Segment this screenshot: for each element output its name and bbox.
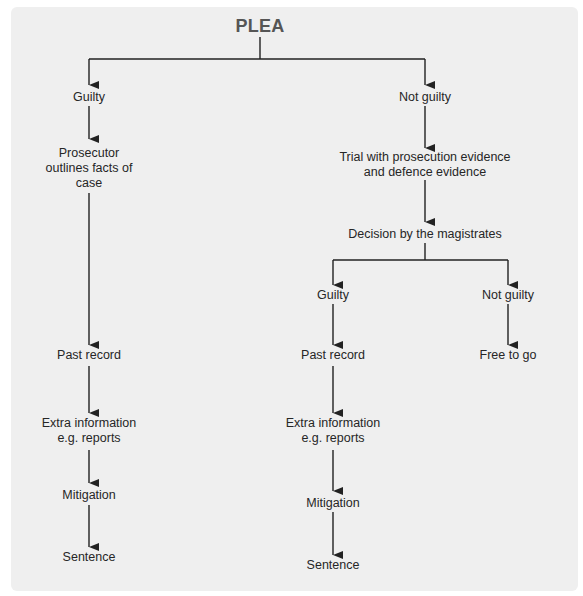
step-sentence-left: Sentence [63, 550, 116, 565]
step-extra-info-left-line2: e.g. reports [57, 431, 120, 446]
outcome-not-guilty-label: Not guilty [482, 288, 534, 303]
not-guilty-plea-label: Not guilty [399, 90, 451, 105]
step-mitigation-left: Mitigation [62, 488, 116, 503]
step-sentence-right: Sentence [307, 558, 360, 573]
guilty-plea-label: Guilty [73, 90, 105, 105]
plea-title: PLEA [235, 16, 284, 37]
step-extra-info-right-line1: Extra information [286, 416, 380, 431]
trial-line2: and defence evidence [364, 165, 486, 180]
step-prosecutor-line1: Prosecutor [59, 146, 119, 161]
step-prosecutor-line3: case [76, 176, 102, 191]
step-extra-info-right-line2: e.g. reports [301, 431, 364, 446]
step-prosecutor-line2: outlines facts of [46, 161, 133, 176]
step-mitigation-right: Mitigation [306, 496, 360, 511]
step-extra-info-left-line1: Extra information [42, 416, 136, 431]
decision-label: Decision by the magistrates [348, 227, 502, 242]
step-free-to-go: Free to go [480, 348, 537, 363]
trial-line1: Trial with prosecution evidence [339, 150, 510, 165]
step-past-record-left: Past record [57, 348, 121, 363]
step-past-record-right: Past record [301, 348, 365, 363]
outcome-guilty-label: Guilty [317, 288, 349, 303]
